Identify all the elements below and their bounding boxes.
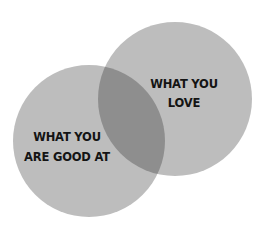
- label-love-line1: WHAT YOU: [150, 77, 218, 91]
- label-good-line1: WHAT YOU: [33, 130, 101, 144]
- label-love-line2: LOVE: [168, 96, 201, 110]
- label-good-line2: ARE GOOD AT: [24, 150, 110, 164]
- venn-diagram: WHAT YOU LOVE WHAT YOU ARE GOOD AT: [0, 0, 265, 236]
